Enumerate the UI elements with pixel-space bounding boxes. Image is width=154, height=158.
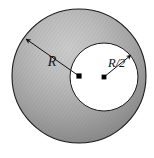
inner-radius-label: R/2: [107, 56, 125, 70]
annulus-diagram: R R/2: [0, 0, 154, 158]
figure-container: R R/2: [0, 0, 154, 158]
inner-center-dot: [102, 75, 107, 80]
outer-radius-label: R: [47, 54, 57, 69]
outer-center-dot: [76, 73, 81, 78]
